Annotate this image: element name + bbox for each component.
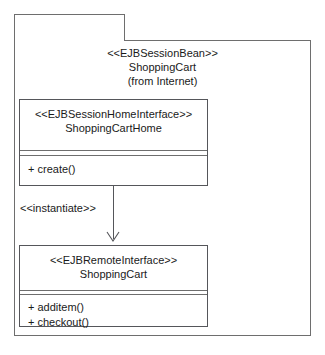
operation-item: + create()	[28, 162, 207, 177]
package-tab-merge	[15, 39, 124, 42]
uml-class-diagram: <<EJBSessionBean>> ShoppingCart (from In…	[0, 0, 325, 355]
package-source: (from Internet)	[14, 74, 311, 88]
class-name-block: <<EJBSessionHomeInterface>> ShoppingCart…	[20, 100, 207, 135]
class-separator-upper	[20, 290, 207, 291]
class-box-shoppingcarthome[interactable]: <<EJBSessionHomeInterface>> ShoppingCart…	[19, 99, 208, 186]
package-tab	[14, 14, 125, 40]
class-stereotype: <<EJBSessionHomeInterface>>	[20, 107, 207, 121]
class-separator-lower	[20, 294, 207, 295]
operation-item: + checkout()	[28, 315, 207, 330]
package-header: <<EJBSessionBean>> ShoppingCart (from In…	[14, 46, 311, 88]
dependency-arrowhead-icon	[106, 231, 120, 243]
package-name: ShoppingCart	[14, 60, 311, 74]
operation-item: + additem()	[28, 300, 207, 315]
class-name-block: <<EJBRemoteInterface>> ShoppingCart	[20, 246, 207, 281]
class-box-shoppingcart-remote[interactable]: <<EJBRemoteInterface>> ShoppingCart + ad…	[19, 245, 208, 327]
package-stereotype: <<EJBSessionBean>>	[14, 46, 311, 60]
class-separator-upper	[20, 150, 207, 151]
class-name: ShoppingCartHome	[20, 121, 207, 135]
dependency-label: <<instantiate>>	[20, 202, 96, 215]
class-stereotype: <<EJBRemoteInterface>>	[20, 253, 207, 267]
class-operations: + create()	[20, 162, 207, 177]
class-name: ShoppingCart	[20, 267, 207, 281]
class-operations: + additem() + checkout()	[20, 300, 207, 330]
class-separator-lower	[20, 155, 207, 156]
